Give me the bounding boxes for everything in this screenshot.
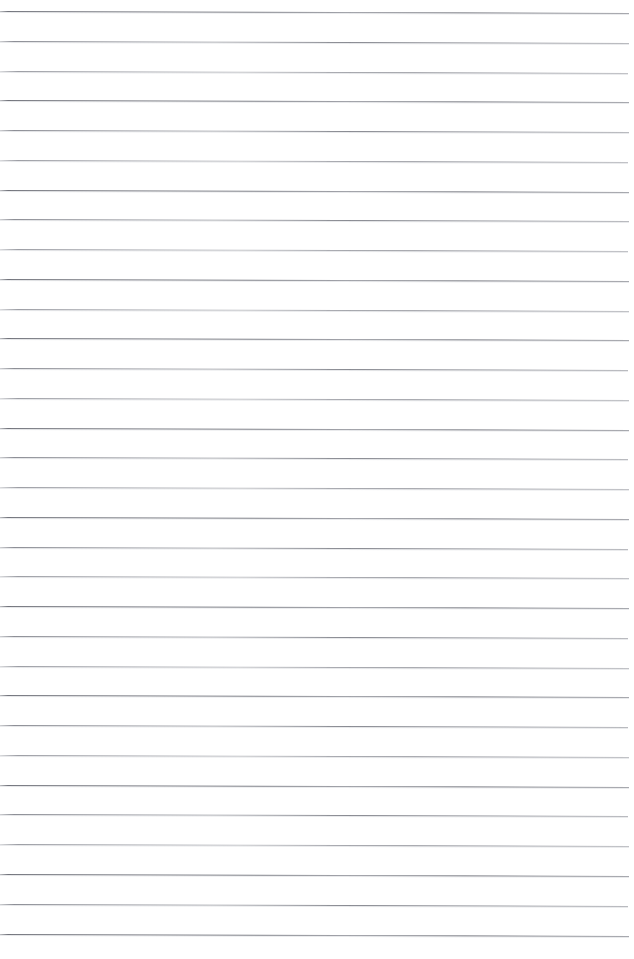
ruled-line	[0, 190, 629, 193]
ruled-line	[0, 398, 629, 401]
lined-paper-page	[0, 0, 634, 959]
ruled-line	[0, 874, 629, 877]
ruled-line	[0, 11, 629, 14]
ruled-line	[0, 71, 628, 74]
ruled-line	[0, 309, 629, 312]
ruled-line	[0, 606, 629, 609]
ruled-line	[0, 785, 629, 788]
ruled-line	[0, 844, 629, 847]
ruled-line	[0, 160, 628, 163]
ruled-line	[0, 219, 629, 222]
ruled-line	[0, 428, 629, 431]
ruled-line	[0, 725, 628, 728]
ruled-line	[0, 487, 629, 490]
ruled-line	[0, 695, 629, 698]
ruled-line	[0, 249, 628, 252]
ruled-line	[0, 576, 629, 579]
ruled-line	[0, 814, 628, 817]
ruled-line	[0, 517, 629, 520]
ruled-line	[0, 41, 629, 44]
ruled-line	[0, 666, 629, 669]
ruled-line	[0, 934, 629, 937]
ruled-line	[0, 338, 629, 341]
ruled-line	[0, 368, 628, 371]
ruled-line	[0, 636, 628, 639]
ruled-line	[0, 130, 629, 133]
ruled-line	[0, 457, 628, 460]
ruled-line	[0, 904, 628, 907]
ruled-line	[0, 100, 629, 103]
ruled-line	[0, 547, 628, 550]
ruled-line	[0, 755, 629, 758]
ruled-line	[0, 279, 629, 282]
